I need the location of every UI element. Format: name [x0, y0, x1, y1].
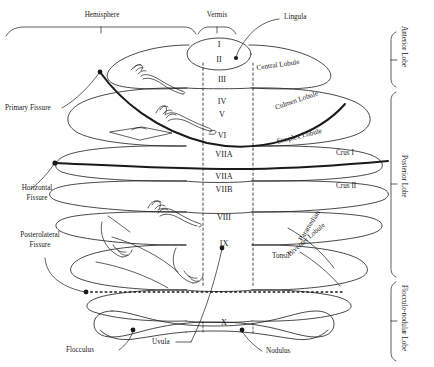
vermis-segment-VIIA-upper: VIIA — [215, 150, 232, 159]
posterolateral-fissure-label-line1: Posterolateral — [2, 231, 78, 241]
horizontal-fissure-label: Horizontal Fissure — [6, 184, 68, 203]
vermis-segment-IV: IV — [218, 97, 227, 106]
uvula-label: Uvula — [152, 338, 170, 347]
lingula-label: Lingula — [284, 13, 306, 22]
crus-ii-label: Crus II — [336, 182, 356, 191]
homunculus-face-diamond — [110, 127, 172, 140]
posterior-lobe-bracket — [391, 92, 397, 277]
homunculus-hand-posterior — [148, 201, 202, 227]
posterolateral-fissure-label-line2: Fissure — [2, 241, 78, 251]
hemisphere-label: Hemisphere — [72, 11, 132, 20]
primary-fissure-label: Primary Fissure — [5, 104, 51, 113]
tonsil-outline — [87, 290, 351, 323]
vermis-segment-VI: VI — [218, 131, 227, 140]
horizontal-fissure-label-line1: Horizontal — [6, 184, 68, 194]
crus-i-label: Crus I — [336, 149, 354, 158]
vermis-bracket-shape — [198, 27, 236, 34]
posterolateral-fissure-leader — [45, 258, 85, 292]
tonsil-label: Tonsil — [272, 252, 290, 261]
flocculonodular-lobe-label: Flocculo-nodular Lobe — [400, 285, 408, 351]
vermis-segment-II: II — [216, 55, 221, 64]
biventer-lobule-outline — [71, 245, 368, 292]
vermis-label: Vermis — [192, 11, 242, 20]
uvula-leader — [176, 249, 222, 342]
vermis-segment-IX: IX — [220, 239, 229, 248]
nodulus-label: Nodulus — [266, 347, 290, 356]
posterolateral-fissure-label: Posterolateral Fissure — [2, 231, 78, 250]
cerebellum-diagram: Hemisphere Vermis Lingula Primary Fissur… — [0, 0, 434, 367]
hemisphere-bracket-shape — [6, 27, 196, 36]
posterior-lobe-label: Posterior Lobe — [400, 155, 408, 198]
vermis-segment-VIIA-lower: VIIA — [215, 172, 232, 181]
homunculus-hand-left-lower — [156, 106, 216, 135]
anterior-lobe-bracket — [391, 32, 397, 87]
lingula-leader — [236, 19, 279, 58]
vermis-segment-I: I — [218, 40, 221, 49]
vermis-segment-V: V — [219, 110, 225, 119]
vermis-segment-VIII: VIII — [217, 213, 231, 222]
homunculus-leg-right — [173, 248, 203, 283]
flocculonodular-outline — [94, 311, 334, 340]
vermis-segment-X: X — [221, 318, 227, 327]
flocculonodular-lobe-bracket — [391, 282, 397, 361]
lingula-dot — [234, 56, 238, 60]
horizontal-fissure-line — [55, 161, 388, 169]
vermis-segment-III: III — [218, 75, 226, 84]
anterior-lobe-label: Anterior Lobe — [400, 26, 408, 67]
flocculus-label: Flocculus — [66, 346, 94, 355]
horizontal-fissure-label-line2: Fissure — [6, 194, 68, 204]
vermis-segment-VIIB: VIIB — [216, 185, 233, 194]
